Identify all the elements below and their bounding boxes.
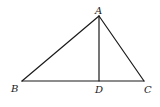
segment-ab <box>22 16 99 81</box>
label-point-c: C <box>144 84 152 95</box>
label-point-a: A <box>94 5 102 16</box>
triangle-diagram: A B D C <box>0 0 160 107</box>
label-point-d: D <box>94 84 103 95</box>
label-point-b: B <box>10 83 18 94</box>
segment-ac <box>99 16 144 81</box>
